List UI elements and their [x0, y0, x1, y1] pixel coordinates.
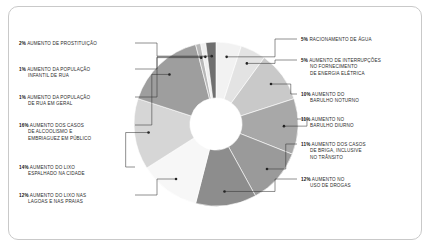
slice-label-lixo-lagoas-praias: 12% AUMENTO DO LIXO NAS LAGOAS E NAS PRA… — [19, 193, 86, 206]
slice-text-l2: DE BRIGA, INCLUSIVE — [301, 148, 366, 154]
slice-text-l2: ESPALHADO NA CIDADE — [19, 171, 85, 177]
slice-text-l2: DE RUA EM GERAL — [19, 101, 90, 107]
slice-text-l1: AUMENTO DO — [312, 92, 345, 97]
chart-card: 5% RACIONAMENTO DE ÁGUA 5% AUMENTO DE IN… — [8, 6, 422, 240]
slice-text-l3: EMBRIAGUEZ EM PÚBLICO — [19, 136, 91, 142]
slice-label-alcoolismo-embriaguez: 16% AUMENTO DOS CASOS DE ALCOOLISMO E EM… — [19, 123, 91, 142]
slice-text-l1: AUMENTO NO — [312, 177, 345, 182]
slice-pct: 1% — [19, 67, 26, 72]
slice-pct: 12% — [301, 177, 311, 182]
slice-text-l1: AUMENTO DOS CASOS — [312, 142, 366, 147]
slice-pct: 11% — [301, 117, 310, 122]
slice-text-l2: USO DE DROGAS — [301, 183, 351, 189]
slice-pct: 1% — [19, 95, 26, 100]
slice-text-l2: BARULHO NOTURNO — [301, 98, 359, 104]
slice-text-l1: AUMENTO DA POPULAÇÃO — [27, 67, 90, 72]
slice-pct: 10% — [301, 92, 311, 97]
slice-text-l1: AUMENTO DA POPULAÇÃO — [27, 95, 90, 100]
slice-text-l1: RACIONAMENTO DE ÁGUA — [309, 37, 371, 42]
slice-text-l1: AUMENTO DOS CASOS — [30, 123, 84, 128]
slice-label-populacao-rua-geral: 1% AUMENTO DA POPULAÇÃO DE RUA EM GERAL — [19, 95, 90, 108]
slice-text-l1: AUMENTO DE INTERRUPÇÕES — [309, 58, 381, 63]
slice-label-casos-briga: 11% AUMENTO DOS CASOS DE BRIGA, INCLUSIV… — [301, 142, 366, 161]
slice-label-interrupcoes-energia: 5% AUMENTO DE INTERRUPÇÕES NO FORNECIMEN… — [301, 58, 381, 77]
slice-pct: 14% — [19, 165, 29, 170]
slice-pct: 12% — [19, 193, 29, 198]
slice-pct: 16% — [19, 123, 29, 128]
slice-label-prostituicao: 2% AUMENTO DE PROSTITUIÇÃO — [19, 41, 97, 47]
slice-pct: 11% — [301, 142, 310, 147]
slice-pct: 5% — [301, 58, 308, 63]
slice-text-l1: AUMENTO NO — [312, 117, 345, 122]
slice-label-lixo-cidade: 14% AUMENTO DO LIXO ESPALHADO NA CIDADE — [19, 165, 85, 178]
slice-text-l1: AUMENTO DO LIXO NAS — [30, 193, 86, 198]
slice-text-l3: NO TRÂNSITO — [301, 155, 366, 161]
slice-label-racionamento-agua: 5% RACIONAMENTO DE ÁGUA — [301, 37, 372, 43]
slice-text-l2: BARULHO DIURNO — [301, 123, 354, 129]
slice-label-barulho-noturno: 10% AUMENTO DO BARULHO NOTURNO — [301, 92, 359, 105]
slice-text-l2: INFANTIL DE RUA — [19, 73, 90, 79]
slice-label-populacao-infantil-rua: 1% AUMENTO DA POPULAÇÃO INFANTIL DE RUA — [19, 67, 90, 80]
slice-label-barulho-diurno: 11% AUMENTO NO BARULHO DIURNO — [301, 117, 354, 130]
slice-text-l1: AUMENTO DE PROSTITUIÇÃO — [27, 41, 97, 46]
donut-slice-group — [134, 42, 298, 206]
slice-text-l3: DE ENERGIA ELÉTRICA — [301, 71, 381, 77]
slice-label-uso-drogas: 12% AUMENTO NO USO DE DROGAS — [301, 177, 351, 190]
slice-pct: 5% — [301, 37, 308, 42]
slice-text-l2: LAGOAS E NAS PRAIAS — [19, 199, 86, 205]
slice-text-l1: AUMENTO DO LIXO — [30, 165, 75, 170]
slice-pct: 2% — [19, 41, 26, 46]
